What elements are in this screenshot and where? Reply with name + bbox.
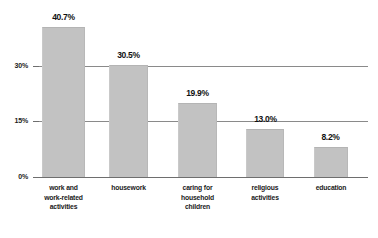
bar-value-label: 40.7% xyxy=(39,13,88,22)
category-label-housework: housework xyxy=(96,183,161,193)
category-label-line: activities xyxy=(232,193,298,203)
category-label-religious: religious activities xyxy=(232,183,298,202)
ytick-label-15: 15% xyxy=(6,117,28,125)
category-label-work: work and work-related activities xyxy=(30,183,97,212)
category-label-line: education xyxy=(298,183,364,193)
bar-housework[interactable] xyxy=(109,65,148,177)
category-label-line: children xyxy=(164,202,231,212)
ytick-mark-30 xyxy=(33,66,39,67)
ytick-label-30: 30% xyxy=(6,62,28,70)
x-axis-baseline xyxy=(33,177,368,178)
ytick-mark-0 xyxy=(33,177,39,178)
category-label-line: housework xyxy=(96,183,161,193)
ytick-label-0: 0% xyxy=(6,173,28,181)
category-label-line: work-related xyxy=(30,193,97,203)
category-label-line: work and xyxy=(30,183,97,193)
category-label-caring: caring for household children xyxy=(164,183,231,212)
bar-work-and-work-related-activities[interactable] xyxy=(42,27,85,177)
bar-chart: 30% 15% 0% 40.7% work and work-related a… xyxy=(0,0,378,238)
category-label-line: household xyxy=(164,193,231,203)
bar-value-label: 30.5% xyxy=(104,51,153,60)
bar-education[interactable] xyxy=(314,147,348,177)
category-label-line: caring for xyxy=(164,183,231,193)
bar-value-label: 8.2% xyxy=(306,133,355,142)
bar-value-label: 19.9% xyxy=(173,89,222,98)
bar-caring-for-household-children[interactable] xyxy=(178,103,217,177)
bar-value-label: 13.0% xyxy=(241,115,290,124)
category-label-education: education xyxy=(298,183,364,193)
plot-area: 30% 15% 0% 40.7% work and work-related a… xyxy=(0,0,378,238)
ytick-mark-15 xyxy=(33,121,39,122)
category-label-line: religious xyxy=(232,183,298,193)
bar-religious-activities[interactable] xyxy=(246,129,284,177)
category-label-line: activities xyxy=(30,202,97,212)
